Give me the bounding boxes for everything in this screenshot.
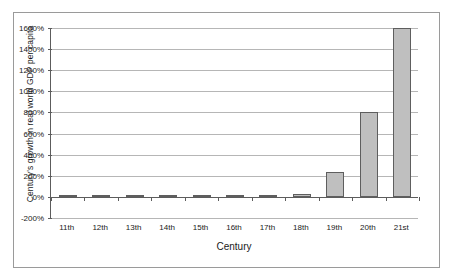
y-axis-tick-labels: -200%0%200%400%600%800%1000%1200%1400%16… <box>16 28 48 218</box>
x-axis-tick-label: 19th <box>327 223 343 232</box>
bars-layer <box>51 28 418 218</box>
y-axis-tick-mark <box>48 155 52 156</box>
x-axis-tick-mark <box>84 197 85 201</box>
y-axis-tick-label: 1000% <box>19 87 44 96</box>
x-axis-tick-label: 18th <box>293 223 309 232</box>
bar[interactable] <box>326 172 344 197</box>
x-axis-tick-label: 16th <box>226 223 242 232</box>
y-axis-tick-mark <box>48 70 52 71</box>
x-axis-tick-mark <box>419 197 420 201</box>
bar-slot <box>386 28 419 218</box>
x-axis-tick-label: 13th <box>126 223 142 232</box>
y-axis-tick-label: 1600% <box>19 24 44 33</box>
bar-slot <box>185 28 218 218</box>
chart-frame: Century's growth in real world GDP per c… <box>13 12 440 268</box>
y-axis-tick-mark <box>48 134 52 135</box>
x-axis-tick-label: 17th <box>260 223 276 232</box>
x-axis-tick-label: 14th <box>159 223 175 232</box>
x-axis-tick-mark <box>319 197 320 201</box>
gridline <box>51 218 418 219</box>
y-axis-tick-mark <box>48 176 52 177</box>
x-axis-tick-label: 20th <box>360 223 376 232</box>
bar[interactable] <box>393 28 411 197</box>
x-axis-tick-mark <box>185 197 186 201</box>
bar-slot <box>285 28 318 218</box>
bar-slot <box>218 28 251 218</box>
x-axis-tick-mark <box>352 197 353 201</box>
y-axis-tick-label: -200% <box>21 214 44 223</box>
zero-axis-line <box>51 197 418 198</box>
y-axis-tick-mark <box>48 28 52 29</box>
y-axis-tick-label: 800% <box>24 108 44 117</box>
x-axis-tick-mark <box>118 197 119 201</box>
x-axis-tick-mark <box>218 197 219 201</box>
x-axis-tick-label: 12th <box>92 223 108 232</box>
x-axis-tick-label: 21st <box>394 223 409 232</box>
y-axis-tick-label: 600% <box>24 129 44 138</box>
y-axis-tick-mark <box>48 112 52 113</box>
bar-slot <box>51 28 84 218</box>
plot-area <box>50 28 418 218</box>
x-axis-tick-mark <box>285 197 286 201</box>
x-axis-tick-labels: 11th12th13th14th15th16th17th18th19th20th… <box>50 223 418 237</box>
x-axis-tick-mark <box>386 197 387 201</box>
bar-slot <box>319 28 352 218</box>
bar-slot <box>352 28 385 218</box>
y-axis-tick-label: 1200% <box>19 66 44 75</box>
x-axis-tick-mark <box>51 197 52 201</box>
x-axis-title: Century <box>50 241 418 252</box>
bar-slot <box>84 28 117 218</box>
y-axis-tick-label: 200% <box>24 171 44 180</box>
bar-slot <box>151 28 184 218</box>
y-axis-tick-mark <box>48 218 52 219</box>
bar-slot <box>252 28 285 218</box>
y-axis-tick-label: 1400% <box>19 45 44 54</box>
x-axis-tick-label: 15th <box>193 223 209 232</box>
y-axis-tick-label: 0% <box>32 192 44 201</box>
x-axis-tick-mark <box>151 197 152 201</box>
plot-wrapper: -200%0%200%400%600%800%1000%1200%1400%16… <box>50 28 418 218</box>
x-axis-tick-label: 11th <box>59 223 74 232</box>
y-axis-tick-mark <box>48 49 52 50</box>
bar-slot <box>118 28 151 218</box>
bar[interactable] <box>360 112 378 196</box>
y-axis-tick-label: 400% <box>24 150 44 159</box>
x-axis-tick-mark <box>252 197 253 201</box>
y-axis-tick-mark <box>48 91 52 92</box>
